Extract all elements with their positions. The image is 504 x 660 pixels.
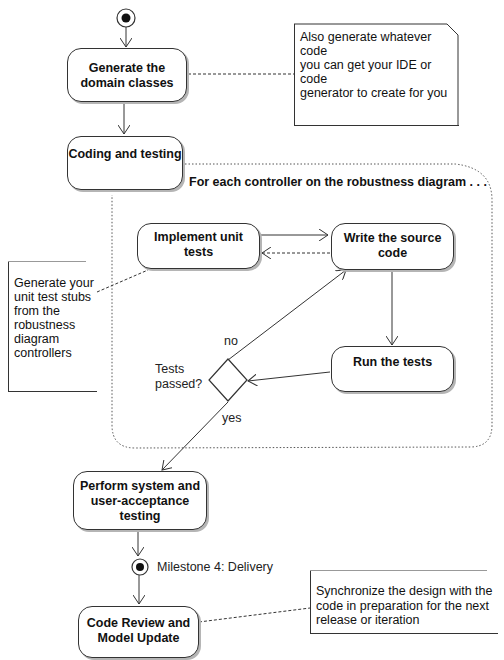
activity-run-the-tests[interactable]: Run the tests (331, 346, 454, 392)
activity-perform-system-testing[interactable]: Perform system and user-acceptance testi… (73, 471, 207, 530)
loop-region-label: For each controller on the robustness di… (189, 175, 487, 189)
decision-yes-label: yes (222, 411, 241, 426)
activity-write-source-code[interactable]: Write the source code (331, 223, 454, 270)
activity-implement-unit-tests[interactable]: Implement unit tests (137, 223, 260, 269)
decision-label: Tests passed? (155, 362, 202, 392)
decision-diamond (209, 359, 247, 401)
activity-generate-domain-classes[interactable]: Generate the domain classes (67, 48, 187, 102)
note-synchronize-design: Synchronize the design with the code in … (310, 571, 498, 634)
activity-coding-and-testing[interactable]: Coding and testing (67, 136, 183, 190)
activity-code-review-model-update[interactable]: Code Review and Model Update (78, 606, 199, 658)
milestone-label: Milestone 4: Delivery (157, 560, 273, 575)
note-generate-code: Also generate whatever code you can get … (294, 24, 459, 126)
loop-region-border (112, 164, 492, 448)
note-unit-test-stubs: Generate your unit test stubs from the r… (8, 262, 97, 392)
decision-no-label: no (224, 334, 238, 349)
